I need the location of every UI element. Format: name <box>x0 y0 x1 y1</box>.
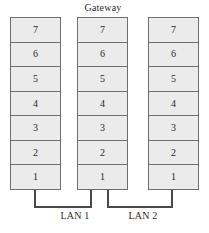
lan-1-label: LAN 1 <box>45 210 105 221</box>
layer-box-right-4: 4 <box>148 91 199 116</box>
layer-box-right-5: 5 <box>148 66 199 91</box>
layer-box-gateway-5: 5 <box>77 66 128 91</box>
layer-box-left-1: 1 <box>10 164 61 190</box>
lan-2-label: LAN 2 <box>113 210 173 221</box>
lan2-bus-line <box>107 206 173 208</box>
protocol-stack-left: 7 6 5 4 3 2 1 <box>10 17 61 190</box>
layer-box-right-1: 1 <box>148 164 199 190</box>
layer-box-gateway-4: 4 <box>77 91 128 116</box>
layer-box-right-6: 6 <box>148 42 199 67</box>
layer-box-left-4: 4 <box>10 91 61 116</box>
layer-box-right-3: 3 <box>148 115 199 140</box>
layer-box-left-5: 5 <box>10 66 61 91</box>
layer-box-left-3: 3 <box>10 115 61 140</box>
lan1-bus-line <box>34 206 92 208</box>
network-gateway-diagram: Gateway 7 6 5 4 3 2 1 7 6 5 4 3 2 1 7 6 … <box>0 0 209 233</box>
layer-box-gateway-7: 7 <box>77 17 128 42</box>
gateway-title-label: Gateway <box>77 1 129 14</box>
layer-box-left-6: 6 <box>10 42 61 67</box>
protocol-stack-gateway: 7 6 5 4 3 2 1 <box>77 17 128 190</box>
layer-box-right-2: 2 <box>148 140 199 165</box>
layer-box-gateway-1: 1 <box>77 164 128 190</box>
layer-box-gateway-3: 3 <box>77 115 128 140</box>
layer-box-gateway-2: 2 <box>77 140 128 165</box>
lan2-drop-line-right <box>171 190 173 208</box>
layer-box-left-7: 7 <box>10 17 61 42</box>
layer-box-left-2: 2 <box>10 140 61 165</box>
lan1-drop-line-gateway <box>90 190 92 208</box>
layer-box-right-7: 7 <box>148 17 199 42</box>
protocol-stack-right: 7 6 5 4 3 2 1 <box>148 17 199 190</box>
layer-box-gateway-6: 6 <box>77 42 128 67</box>
